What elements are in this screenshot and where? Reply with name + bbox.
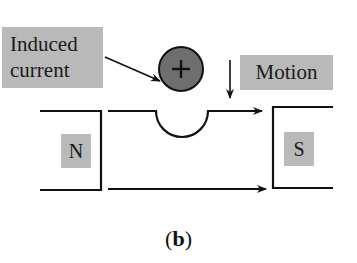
field-line-top	[108, 111, 262, 137]
caption-close-paren: )	[185, 226, 192, 251]
caption-letter: b	[172, 226, 184, 251]
south-pole-label: S	[284, 132, 314, 166]
induced-current-line2: current	[10, 57, 103, 83]
conductor	[159, 47, 203, 91]
induced-current-label: Induced current	[2, 27, 103, 88]
induced-current-pointer-arrow	[105, 57, 160, 81]
figure-caption: (b)	[0, 226, 357, 252]
induced-current-line1: Induced	[10, 31, 103, 57]
motion-label: Motion	[240, 55, 333, 90]
north-pole-label: N	[61, 134, 91, 168]
